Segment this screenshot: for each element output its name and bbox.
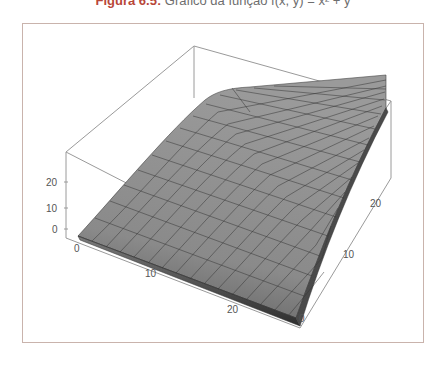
z-axis: 0 10 20 bbox=[46, 177, 68, 235]
z-tick-10: 10 bbox=[46, 203, 58, 214]
surface bbox=[78, 75, 388, 326]
y-tick-0: 0 bbox=[299, 313, 305, 324]
x-tick-10: 10 bbox=[145, 268, 157, 279]
x-tick-20: 20 bbox=[227, 304, 239, 315]
surface-plot: 0 10 20 0 10 20 0 10 20 bbox=[0, 0, 446, 368]
z-tick-0: 0 bbox=[52, 224, 58, 235]
z-tick-20: 20 bbox=[46, 177, 58, 188]
y-tick-20: 20 bbox=[370, 198, 382, 209]
y-tick-10: 10 bbox=[343, 249, 355, 260]
x-tick-0: 0 bbox=[74, 243, 80, 254]
